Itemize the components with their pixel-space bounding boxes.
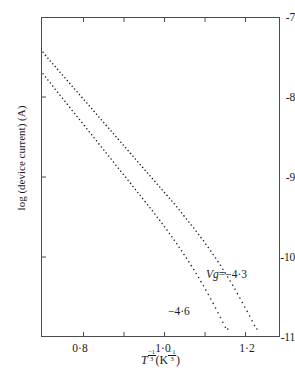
y-tick-label: -9 bbox=[261, 172, 295, 184]
plot-canvas bbox=[0, 0, 295, 375]
y-axis-ticks bbox=[41, 97, 46, 257]
y-tick-label: -10 bbox=[261, 252, 295, 264]
figure-panel: -7 -8 -9 -10 -11 0·8 1·0 1·2 log (device… bbox=[0, 0, 295, 375]
y-tick-label: -8 bbox=[261, 92, 295, 104]
annotation-vg-4-6: −4·6 bbox=[168, 305, 190, 317]
annotation-vg-4-3-value: =−4·3 bbox=[219, 268, 247, 280]
data-series-vg-4-6 bbox=[42, 73, 228, 330]
data-series-vg-4-3 bbox=[42, 51, 257, 329]
x-axis-ticks bbox=[84, 17, 246, 337]
annotation-vg-4-6-value: −4·6 bbox=[168, 305, 190, 317]
annotation-vg-4-3-symbol: Vg bbox=[206, 268, 219, 280]
x-axis-title-unit-close: ) bbox=[176, 353, 180, 367]
x-axis-title-symbol: T bbox=[141, 353, 148, 367]
x-axis-title-unit-open: (K bbox=[156, 353, 169, 367]
annotation-vg-4-3: Vg=−4·3 bbox=[206, 268, 247, 280]
y-axis-title: log (device current) (A) bbox=[15, 83, 27, 233]
x-axis-title: T−13(K−13) bbox=[41, 352, 280, 368]
x-axis-title-unit-exponent: −13 bbox=[168, 349, 176, 362]
y-tick-label: -11 bbox=[261, 332, 295, 344]
x-axis-title-exponent: −13 bbox=[148, 349, 156, 362]
y-tick-label: -7 bbox=[261, 12, 295, 24]
